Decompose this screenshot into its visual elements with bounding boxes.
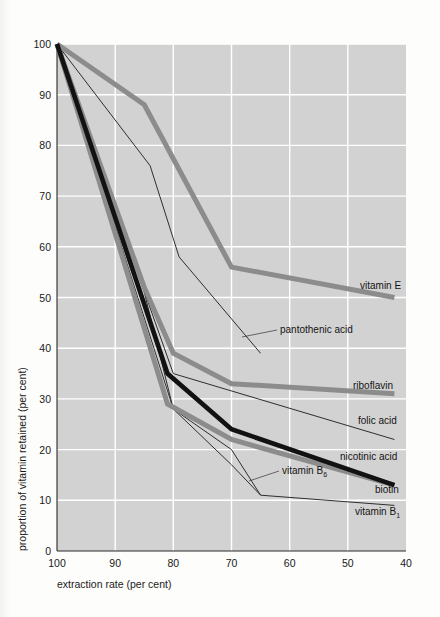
x-tick-80: 80 xyxy=(167,557,179,569)
series-label-vitamin-b6-text: vitamin B xyxy=(282,465,323,476)
y-tick-80: 80 xyxy=(39,139,51,151)
y-tick-60: 60 xyxy=(39,241,51,253)
series-label-nicotinic-acid: nicotinic acid xyxy=(340,451,397,462)
y-tick-70: 70 xyxy=(39,190,51,202)
y-tick-50: 50 xyxy=(39,292,51,304)
x-tick-labels: 100 90 80 70 60 50 40 xyxy=(48,557,412,569)
y-axis-title: proportion of vitamin retained (per cent… xyxy=(16,367,28,551)
series-label-pantothenic-acid: pantothenic acid xyxy=(280,324,353,335)
series-label-riboflavin: riboflavin xyxy=(353,380,393,391)
x-tick-90: 90 xyxy=(109,557,121,569)
y-tick-0: 0 xyxy=(45,545,51,557)
series-label-biotin: biotin xyxy=(375,484,399,495)
x-tick-40: 40 xyxy=(400,557,412,569)
vitamin-retention-chart: 100 90 80 70 60 50 40 0 10 20 30 40 50 6… xyxy=(0,0,440,617)
y-tick-90: 90 xyxy=(39,89,51,101)
y-tick-20: 20 xyxy=(39,444,51,456)
y-tick-100: 100 xyxy=(33,38,51,50)
y-tick-10: 10 xyxy=(39,494,51,506)
series-label-vitamin-b6-subscript: 6 xyxy=(323,471,327,478)
series-label-vitamin-e: vitamin E xyxy=(360,280,401,291)
y-tick-labels: 0 10 20 30 40 50 60 70 80 90 100 xyxy=(33,38,51,557)
x-tick-60: 60 xyxy=(284,557,296,569)
x-tick-50: 50 xyxy=(342,557,354,569)
x-tick-70: 70 xyxy=(226,557,238,569)
series-label-folic-acid: folic acid xyxy=(358,415,397,426)
y-tick-30: 30 xyxy=(39,393,51,405)
series-label-vitamin-b1-subscript: 1 xyxy=(396,512,400,519)
y-tick-40: 40 xyxy=(39,342,51,354)
series-label-vitamin-b1-text: vitamin B xyxy=(355,506,396,517)
x-tick-100: 100 xyxy=(48,557,66,569)
x-axis-title: extraction rate (per cent) xyxy=(57,578,171,590)
